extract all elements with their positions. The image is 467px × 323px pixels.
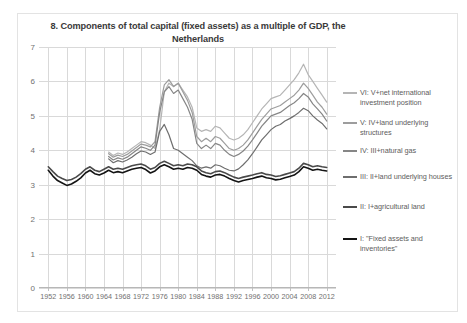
y-axis-tick-label: 1 [31,249,35,258]
y-axis-tick-label: 4 [31,146,35,155]
x-axis-tick-mark [215,288,216,291]
x-axis-tick-mark [104,288,105,291]
x-axis-tick-mark [234,288,235,291]
chart-figure: 8. Components of total capital (fixed as… [17,13,458,312]
legend-item-label: IV: III+natural gas [360,146,416,156]
x-axis-tick-mark [271,288,272,291]
gridline-horizontal [39,288,336,289]
y-axis-tick-label: 2 [31,215,35,224]
x-axis-tick-label: 1972 [133,292,149,301]
plot-area: 0123456719521956196019641968197219761980… [39,47,336,288]
legend-item[interactable]: II: I+agricultural land [343,202,467,212]
x-axis-tick-mark [160,288,161,291]
legend-item-label: V: IV+land underlyingstructures [360,118,428,137]
x-axis-tick-label: 1960 [77,292,93,301]
x-axis-tick-mark [123,288,124,291]
x-axis-tick-mark [290,288,291,291]
x-axis-tick-label: 1988 [207,292,223,301]
x-axis-tick-mark [67,288,68,291]
x-axis-tick-label: 1952 [40,292,56,301]
legend-color-swatch [343,176,357,178]
x-axis-tick-label: 1984 [189,292,205,301]
legend-item-label: I: "Fixed assets andinventories" [360,234,423,253]
legend-color-swatch [343,206,357,208]
legend-item-label: VI: V+net internationalinvestment positi… [360,88,431,107]
x-axis-tick-label: 1996 [244,292,260,301]
x-axis-tick-mark [252,288,253,291]
legend-item[interactable]: IV: III+natural gas [343,146,467,156]
x-axis-tick-label: 2004 [282,292,298,301]
x-axis-tick-mark [85,288,86,291]
x-axis-tick-label: 1964 [96,292,112,301]
x-axis-tick-label: 2008 [300,292,316,301]
x-axis-tick-label: 1976 [152,292,168,301]
x-axis-tick-label: 1980 [170,292,186,301]
y-axis-tick-label: 5 [31,111,35,120]
x-axis-tick-label: 1968 [115,292,131,301]
legend-item-label: III: II+land underlying houses [360,172,452,182]
legend-color-swatch [343,92,357,94]
x-axis-tick-mark [178,288,179,291]
legend-color-swatch [343,150,357,152]
series-line [109,64,327,155]
x-axis-tick-mark [197,288,198,291]
y-axis-tick-label: 0 [31,284,35,293]
chart-title: 8. Components of total capital (fixed as… [48,20,348,45]
legend-item[interactable]: VI: V+net internationalinvestment positi… [343,88,467,107]
series-line [109,80,327,157]
x-axis-tick-label: 2000 [263,292,279,301]
series-line [109,87,327,160]
legend-item[interactable]: III: II+land underlying houses [343,172,467,182]
y-axis-tick-label: 7 [31,43,35,52]
x-axis-tick-mark [327,288,328,291]
legend-item-label: II: I+agricultural land [360,202,425,212]
y-axis-tick-label: 3 [31,180,35,189]
x-axis-tick-mark [141,288,142,291]
y-axis-tick-label: 6 [31,77,35,86]
legend-color-swatch [343,122,357,124]
series-lines [39,47,336,288]
x-axis-tick-label: 1956 [59,292,75,301]
legend-color-swatch [343,238,357,240]
series-line [109,108,327,171]
legend-item[interactable]: I: "Fixed assets andinventories" [343,234,467,253]
x-axis-tick-mark [308,288,309,291]
legend-item[interactable]: V: IV+land underlyingstructures [343,118,467,137]
x-axis-tick-label: 1992 [226,292,242,301]
x-axis-tick-label: 2012 [319,292,335,301]
x-axis-tick-mark [48,288,49,291]
